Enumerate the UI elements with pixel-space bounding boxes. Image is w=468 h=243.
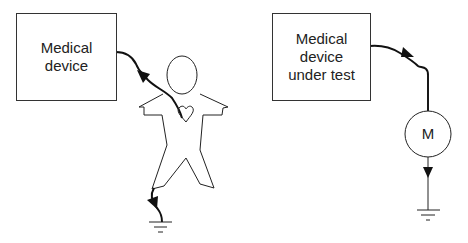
- device-under-test-box: Medical device under test: [272, 13, 371, 101]
- meter-label: M: [418, 125, 438, 142]
- device-label-line1: Medical: [41, 39, 93, 57]
- test-wire: [370, 46, 428, 111]
- leakage-wire-to-heart: [116, 52, 182, 118]
- dut-label-line1: Medical: [288, 30, 355, 48]
- medical-device-box: Medical device: [16, 13, 117, 101]
- ground-icon: [417, 210, 440, 220]
- current-arrow-icon: [423, 167, 433, 178]
- current-arrow-icon: [401, 47, 414, 57]
- dut-label-line2: device: [288, 48, 355, 66]
- figure-body: [139, 94, 228, 189]
- figure-head: [167, 56, 197, 94]
- device-label-line2: device: [41, 57, 93, 75]
- ground-icon: [149, 222, 172, 232]
- dut-label-line3: under test: [288, 66, 355, 84]
